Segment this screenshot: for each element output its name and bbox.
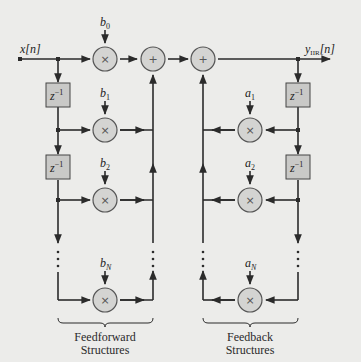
multiply-symbol: ×	[100, 294, 109, 307]
coef-b0: b0	[100, 15, 110, 31]
coef-b2: b2	[100, 156, 110, 172]
feedback-caption-line1: Feedback	[227, 330, 273, 344]
feedback-caption-line2: Structures	[226, 343, 275, 357]
add-symbol: +	[198, 53, 207, 66]
output-label: yIIR[n]	[304, 42, 335, 57]
iir-filter-diagram: × × × × × × × + + z−1 z−1 z−1 z−1 x[n] y…	[0, 0, 361, 362]
coef-b1: b1	[100, 86, 110, 102]
feedforward-brace	[58, 318, 153, 327]
multiply-symbol: ×	[100, 194, 109, 207]
multiply-symbol: ×	[100, 124, 109, 137]
feedforward-caption-line1: Feedforward	[74, 330, 135, 344]
multiply-symbol: ×	[100, 53, 109, 66]
coef-a2: a2	[245, 156, 255, 172]
input-label: x[n]	[19, 42, 41, 56]
multiply-symbol: ×	[245, 124, 254, 137]
multiply-symbol: ×	[245, 194, 254, 207]
feedback-brace	[203, 318, 298, 327]
feedforward-caption-line2: Structures	[81, 343, 130, 357]
coef-bN: bN	[100, 256, 112, 272]
coef-a1: a1	[245, 86, 255, 102]
coef-aN: aN	[245, 256, 257, 272]
add-symbol: +	[148, 53, 157, 66]
multiply-symbol: ×	[245, 294, 254, 307]
